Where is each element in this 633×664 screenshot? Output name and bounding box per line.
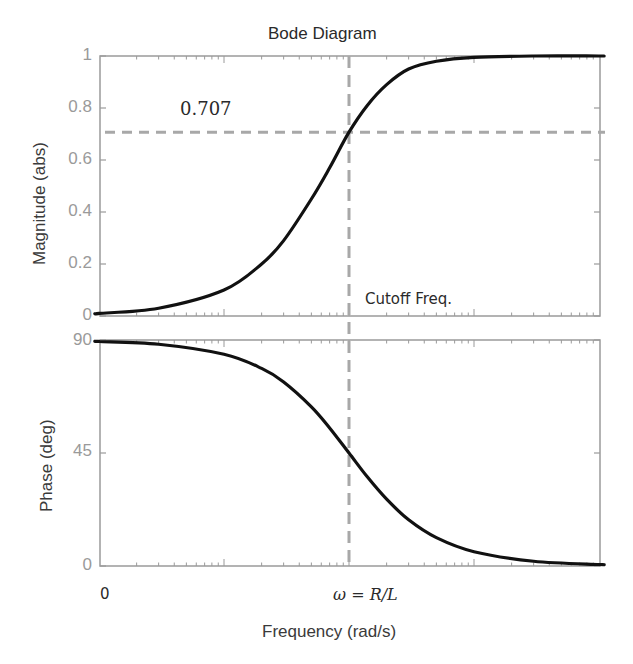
level-annotation-0707: 0.707: [180, 98, 232, 119]
mag-ytick-0.4: 0.4: [52, 201, 92, 221]
xtick-cutoff-omega: ω = R/L: [333, 585, 398, 604]
phase-ytick-0: 0: [52, 555, 92, 575]
frequency-axis-label: Frequency (rad/s): [262, 622, 396, 642]
cutoff-frequency-annotation: Cutoff Freq.: [365, 290, 452, 308]
mag-ytick-0.8: 0.8: [52, 97, 92, 117]
mag-ytick-0.2: 0.2: [52, 253, 92, 273]
phase-axis-label: Phase (deg): [37, 419, 57, 512]
mag-ytick-1: 1: [52, 45, 92, 65]
bode-plot-svg: [0, 0, 633, 664]
mag-ytick-0: 0: [52, 305, 92, 325]
phase-ytick-45: 45: [52, 441, 92, 461]
xtick-zero: 0: [100, 585, 110, 603]
mag-ytick-0.6: 0.6: [52, 149, 92, 169]
chart-title: Bode Diagram: [268, 24, 377, 44]
phase-ytick-90: 90: [52, 330, 92, 350]
magnitude-axis-label: Magnitude (abs): [30, 142, 50, 265]
